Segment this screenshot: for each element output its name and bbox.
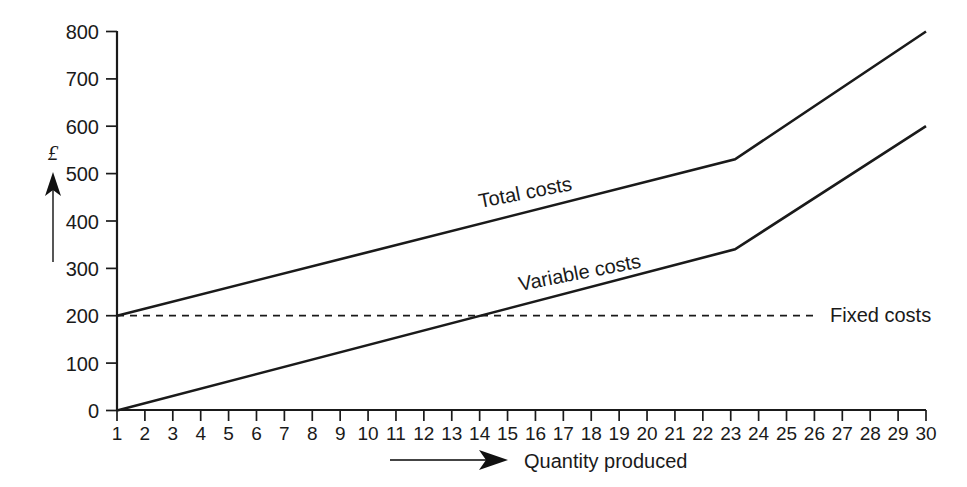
y-tick-label-0: 0 xyxy=(88,400,99,422)
x-axis-arrow-icon xyxy=(390,450,508,470)
x-tick-label-27: 27 xyxy=(832,423,853,444)
x-tick-label-16: 16 xyxy=(525,423,546,444)
x-tick-label-14: 14 xyxy=(469,423,491,444)
x-tick-label-3: 3 xyxy=(168,423,179,444)
x-tick-label-6: 6 xyxy=(251,423,262,444)
y-axis-arrow-icon xyxy=(45,172,61,262)
series-label-variable-costs: Variable costs xyxy=(517,250,643,295)
x-tick-label-29: 29 xyxy=(888,423,909,444)
x-tick-label-17: 17 xyxy=(553,423,574,444)
x-tick-label-2: 2 xyxy=(140,423,151,444)
x-tick-label-18: 18 xyxy=(581,423,602,444)
y-tick-label-800: 800 xyxy=(66,21,99,43)
y-tick-label-500: 500 xyxy=(66,163,99,185)
x-tick-label-7: 7 xyxy=(279,423,290,444)
series-line-variable-costs xyxy=(117,126,926,410)
x-axis-title: Quantity produced xyxy=(524,450,687,472)
y-tick-label-100: 100 xyxy=(66,353,99,375)
x-axis-ticks xyxy=(117,410,926,421)
y-axis-currency-symbol: £ xyxy=(48,141,59,165)
x-tick-label-11: 11 xyxy=(386,423,406,444)
x-tick-label-10: 10 xyxy=(357,423,378,444)
x-tick-label-26: 26 xyxy=(804,423,825,444)
x-tick-label-24: 24 xyxy=(748,423,770,444)
x-tick-label-25: 25 xyxy=(776,423,797,444)
x-tick-label-23: 23 xyxy=(720,423,741,444)
series-label-total-costs: Total costs xyxy=(477,172,574,212)
x-tick-label-30: 30 xyxy=(915,423,936,444)
y-tick-label-700: 700 xyxy=(66,68,99,90)
y-tick-label-200: 200 xyxy=(66,305,99,327)
chart-canvas: 0 100 200 300 400 500 600 700 800 123456… xyxy=(0,0,967,487)
y-axis-ticks xyxy=(106,32,117,411)
x-tick-label-19: 19 xyxy=(609,423,630,444)
x-tick-label-12: 12 xyxy=(413,423,434,444)
x-tick-label-1: 1 xyxy=(112,423,123,444)
y-tick-label-300: 300 xyxy=(66,258,99,280)
x-tick-label-15: 15 xyxy=(497,423,518,444)
x-tick-label-22: 22 xyxy=(692,423,713,444)
cost-chart: 0 100 200 300 400 500 600 700 800 123456… xyxy=(0,0,967,487)
x-tick-label-21: 21 xyxy=(664,423,685,444)
y-axis-tick-labels: 0 100 200 300 400 500 600 700 800 xyxy=(66,21,99,422)
x-tick-label-4: 4 xyxy=(195,423,206,444)
y-tick-label-400: 400 xyxy=(66,211,99,233)
x-axis-tick-labels: 1234567891011121314151617181920212223242… xyxy=(112,423,937,444)
x-tick-label-28: 28 xyxy=(860,423,881,444)
x-tick-label-9: 9 xyxy=(335,423,346,444)
x-tick-label-13: 13 xyxy=(441,423,462,444)
x-tick-label-5: 5 xyxy=(223,423,234,444)
y-tick-label-600: 600 xyxy=(66,116,99,138)
x-tick-label-20: 20 xyxy=(636,423,657,444)
x-tick-label-8: 8 xyxy=(307,423,318,444)
series-label-fixed-costs: Fixed costs xyxy=(830,304,931,326)
